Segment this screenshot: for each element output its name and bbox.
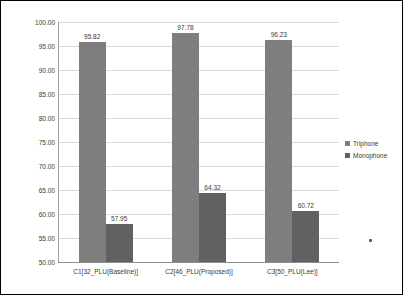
legend-label: Triphone: [353, 140, 378, 147]
monophone-bar: [106, 224, 133, 262]
y-axis-tick-label: 80.00: [23, 115, 55, 122]
y-axis-tick-label: 100.00: [23, 19, 55, 26]
gridline: [59, 22, 339, 23]
y-axis-tick-label: 50.00: [23, 259, 55, 266]
triphone-bar: [79, 42, 106, 262]
bar-value-label: 97.78: [164, 24, 208, 31]
y-axis-tick-label: 60.00: [23, 211, 55, 218]
y-axis-tick-label: 85.00: [23, 91, 55, 98]
legend-label: Monophone: [353, 152, 387, 159]
bar-value-label: 57.95: [97, 215, 141, 222]
category-label: C2[46_PLU(Proposed)]: [152, 268, 245, 276]
triphone-bar: [172, 33, 199, 262]
y-axis-tick-label: 75.00: [23, 139, 55, 146]
monophone-bar: [292, 211, 319, 262]
bar-value-label: 95.82: [70, 33, 114, 40]
legend-item: Triphone: [345, 140, 387, 147]
y-axis-tick-label: 70.00: [23, 163, 55, 170]
triphone-bar: [265, 40, 292, 262]
chart-frame: 50.0055.0060.0065.0070.0075.0080.0085.00…: [0, 0, 403, 295]
bar-value-label: 96.23: [257, 31, 301, 38]
y-axis-tick-label: 55.00: [23, 235, 55, 242]
legend-swatch-icon: [345, 153, 350, 158]
legend-item: Monophone: [345, 152, 387, 159]
speck-artifact: [369, 239, 372, 242]
y-axis-tick-label: 90.00: [23, 67, 55, 74]
legend: TriphoneMonophone: [345, 140, 387, 164]
category-label: C3[50_PLU(Lee)]: [246, 268, 339, 276]
monophone-bar: [199, 193, 226, 262]
bar-value-label: 60.72: [284, 202, 328, 209]
plot-area: 50.0055.0060.0065.0070.0075.0080.0085.00…: [58, 22, 339, 263]
y-axis-tick-label: 65.00: [23, 187, 55, 194]
y-axis-tick-label: 95.00: [23, 43, 55, 50]
category-label: C1[32_PLU(Baseline)]: [59, 268, 152, 276]
bar-value-label: 64.32: [191, 184, 235, 191]
legend-swatch-icon: [345, 141, 350, 146]
